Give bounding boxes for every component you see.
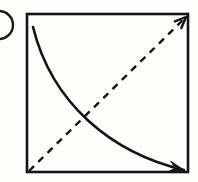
paper-background [0,0,198,182]
figure-canvas [0,0,198,182]
diagram-svg [0,0,198,182]
